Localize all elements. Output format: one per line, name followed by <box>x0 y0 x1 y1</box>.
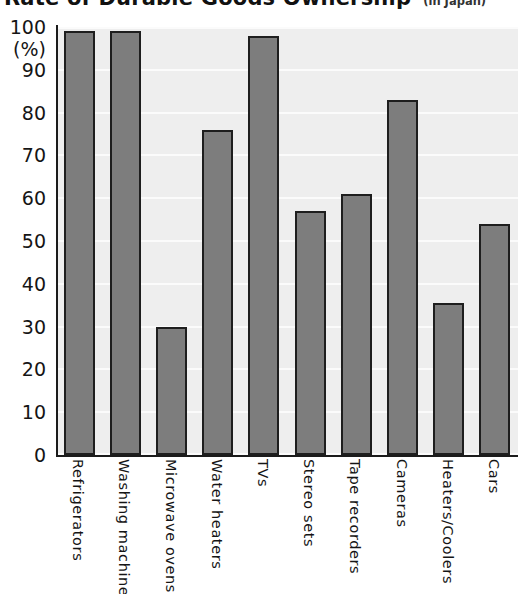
y-axis-tick-label: 50 <box>22 232 46 251</box>
x-axis-tick-label: Cameras <box>394 459 409 591</box>
y-axis-tick-label: 0 <box>34 446 46 465</box>
durable-goods-ownership-chart: Rate of Durable Goods Ownership (in Japa… <box>0 0 522 594</box>
y-axis-tick-label: 30 <box>22 318 46 337</box>
y-axis-tick-label: 20 <box>22 360 46 379</box>
x-axis-tick-label: Water heaters <box>209 459 224 591</box>
y-axis-tick-label: 100 <box>10 18 46 37</box>
x-axis-tick-label: Stereo sets <box>302 459 317 591</box>
x-axis-tick-label: Microwave ovens <box>163 459 178 591</box>
y-axis-tick-label: 80 <box>22 104 46 123</box>
bar <box>110 31 141 455</box>
chart-subtitle: (in Japan) <box>423 0 486 8</box>
bar <box>433 303 464 455</box>
bar <box>156 327 187 455</box>
x-axis-labels: RefrigeratorsWashing machinesMicrowave o… <box>56 459 518 594</box>
page-title: Rate of Durable Goods Ownership <box>4 0 411 10</box>
bar <box>64 31 95 455</box>
y-axis: 1009080706050403020100(%) <box>0 0 52 594</box>
plot-area <box>56 27 518 455</box>
x-axis-line <box>56 455 518 457</box>
bar <box>202 130 233 455</box>
y-axis-tick-label: 90 <box>22 61 46 80</box>
y-axis-tick-label: 70 <box>22 146 46 165</box>
x-axis-tick-label: Washing machines <box>117 459 132 591</box>
x-axis-tick-label: Tape recorders <box>348 459 363 591</box>
chart-title-block: Rate of Durable Goods Ownership (in Japa… <box>4 0 486 10</box>
x-axis-tick-label: TVs <box>255 459 270 591</box>
y-axis-tick-label: 60 <box>22 189 46 208</box>
x-axis-tick-label: Cars <box>486 459 501 591</box>
y-axis-unit-label: (%) <box>13 40 46 59</box>
bar <box>387 100 418 455</box>
bar <box>341 194 372 455</box>
bar-series <box>56 27 518 455</box>
y-axis-tick-label: 10 <box>22 403 46 422</box>
bar <box>479 224 510 455</box>
bar <box>295 211 326 455</box>
x-axis-tick-label: Heaters/Coolers <box>440 459 455 591</box>
y-axis-tick-label: 40 <box>22 275 46 294</box>
x-axis-tick-label: Refrigerators <box>71 459 86 591</box>
y-axis-line <box>56 25 58 457</box>
bar <box>248 36 279 455</box>
